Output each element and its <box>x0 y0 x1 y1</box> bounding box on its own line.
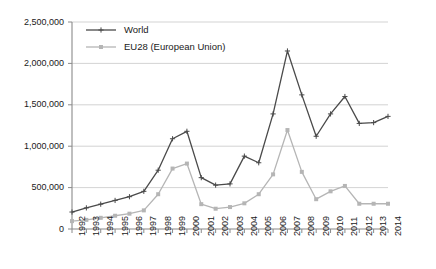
y-axis-tick-label: 1,500,000 <box>0 99 64 109</box>
data-point-marker <box>386 202 390 206</box>
y-axis-tick-label: 500,000 <box>0 182 64 192</box>
x-axis-tick-label: 1995 <box>120 216 130 236</box>
x-axis-tick-label: 2002 <box>220 216 230 236</box>
data-point-marker <box>271 172 275 176</box>
x-axis-tick-label: 1997 <box>148 216 158 236</box>
x-axis-tick-label: 2011 <box>349 217 359 236</box>
data-point-marker <box>199 202 203 206</box>
x-axis-tick-label: 2008 <box>306 216 316 236</box>
y-axis-tick-label: 0 <box>0 224 64 234</box>
data-point-marker <box>70 219 74 223</box>
data-point-marker <box>357 202 361 206</box>
x-axis-tick-label: 2014 <box>393 216 403 236</box>
legend-swatch-world <box>86 25 116 35</box>
x-axis-tick-label: 1992 <box>77 216 87 236</box>
legend-swatch-eu28 <box>86 42 116 52</box>
data-point-marker <box>300 170 304 174</box>
x-axis-tick-label: 2009 <box>321 216 331 236</box>
data-point-marker <box>171 167 175 171</box>
data-point-marker <box>257 192 261 196</box>
x-axis-tick-label: 2006 <box>278 216 288 236</box>
x-axis-tick-label: 1993 <box>91 216 101 236</box>
data-point-marker <box>242 201 246 205</box>
x-axis-tick-label: 2007 <box>292 216 302 236</box>
y-axis-tick-label: 1,000,000 <box>0 141 64 151</box>
x-axis-tick-label: 1998 <box>163 216 173 236</box>
x-axis-tick-label: 2001 <box>206 216 216 236</box>
line-chart: 0500,0001,000,0001,500,0002,000,0002,500… <box>0 0 436 269</box>
x-axis-tick-label: 1996 <box>134 216 144 236</box>
x-axis-tick-label: 1999 <box>177 216 187 236</box>
data-point-marker <box>156 192 160 196</box>
data-point-marker <box>142 208 146 212</box>
x-axis-tick-label: 2003 <box>235 216 245 236</box>
x-axis-tick-label: 2010 <box>335 216 345 236</box>
x-axis-tick-label: 2005 <box>263 216 273 236</box>
data-point-marker <box>343 184 347 188</box>
legend-marker <box>99 45 103 49</box>
data-point-marker <box>185 162 189 166</box>
legend-label-eu28: EU28 (European Union) <box>124 41 225 52</box>
x-axis-tick-label: 2004 <box>249 216 259 236</box>
data-point-marker <box>329 189 333 193</box>
y-axis-tick-label: 2,500,000 <box>0 17 64 27</box>
x-axis-tick-label: 2013 <box>378 216 388 236</box>
data-point-marker <box>372 202 376 206</box>
data-point-marker <box>314 197 318 201</box>
x-axis-tick-label: 2012 <box>364 216 374 236</box>
y-axis-tick-label: 2,000,000 <box>0 58 64 68</box>
data-point-marker <box>214 207 218 211</box>
data-point-marker <box>285 128 289 132</box>
x-axis-tick-label: 1994 <box>105 216 115 236</box>
data-point-marker <box>228 205 232 209</box>
x-axis-tick-label: 2000 <box>191 216 201 236</box>
legend-label-world: World <box>124 24 149 35</box>
